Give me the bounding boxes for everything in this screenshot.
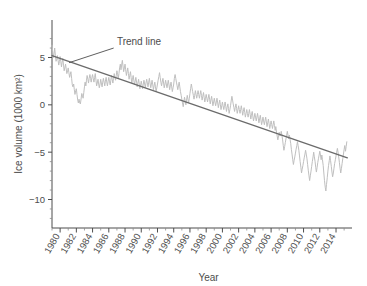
y-axis-title: Ice volume (1000 km²) (13, 74, 24, 173)
x-tick-label-1996: 1996 (172, 232, 192, 256)
ice-volume-line-chart: 50−5−10 19801982198419861988199019921994… (0, 0, 367, 286)
x-tick-label-2004: 2004 (237, 231, 257, 255)
x-tick-label-1980: 1980 (42, 232, 62, 256)
x-tick-label-1992: 1992 (139, 232, 159, 256)
x-tick-label-2008: 2008 (269, 232, 289, 256)
y-tick-label-5: 5 (40, 52, 45, 63)
x-tick-label-2010: 2010 (285, 232, 305, 256)
x-tick-label-1998: 1998 (188, 232, 208, 256)
x-axis-title: Year (198, 272, 219, 283)
x-tick-label-1984: 1984 (74, 232, 94, 256)
x-tick-label-2002: 2002 (220, 232, 240, 256)
x-tick-label-1994: 1994 (155, 232, 175, 256)
x-tick-label-2006: 2006 (253, 232, 273, 256)
x-tick-label-1988: 1988 (107, 232, 127, 256)
chart-container: 50−5−10 19801982198419861988199019921994… (0, 0, 367, 286)
x-axis-group: 1980198219841986198819901992199419961998… (42, 228, 352, 255)
y-tick-label-0: 0 (40, 99, 45, 110)
data-series-ice-volume (52, 45, 347, 191)
y-axis-major-ticks (48, 58, 52, 200)
x-tick-label-2000: 2000 (204, 232, 224, 256)
x-tick-label-1990: 1990 (123, 232, 143, 256)
trend-line-annotation-label: Trend line (117, 36, 162, 47)
x-tick-label-2014: 2014 (318, 232, 338, 256)
annotation-group: Trend line (69, 36, 161, 63)
x-tick-label-1982: 1982 (58, 232, 78, 256)
x-tick-label-1986: 1986 (90, 232, 110, 256)
y-axis-tick-labels: 50−5−10 (29, 52, 45, 205)
y-tick-label--5: −5 (34, 147, 45, 158)
trend-line (52, 56, 347, 158)
x-axis-tick-labels: 1980198219841986198819901992199419961998… (42, 231, 338, 255)
y-axis-group: 50−5−10 (29, 20, 52, 228)
y-tick-label--10: −10 (29, 194, 45, 205)
trend-line-leader (69, 48, 114, 63)
x-tick-label-2012: 2012 (301, 232, 321, 256)
plot-series-group (52, 45, 347, 191)
